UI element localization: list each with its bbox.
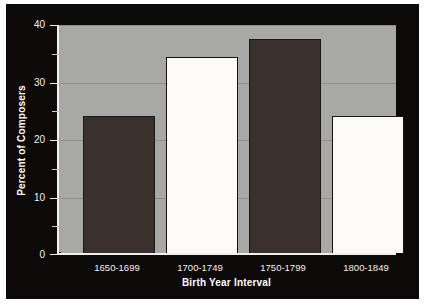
x-tick-label-1650-1699: 1650-1699 (94, 262, 139, 273)
y-axis-title: Percent of Composers (14, 25, 28, 255)
y-tick-label-0: 0 (39, 250, 45, 260)
y-tick-major-0 (50, 254, 59, 255)
y-tick-label-10: 10 (34, 193, 45, 203)
x-tick-label-1800-1849: 1800-1849 (343, 262, 388, 273)
y-tick-minor-35 (52, 54, 59, 55)
y-tick-label-30: 30 (34, 78, 45, 88)
y-tick-minor-5 (52, 226, 59, 227)
x-tick-label-1700-1749: 1700-1749 (177, 262, 222, 273)
bar-1700-1749[interactable] (166, 57, 238, 253)
x-tick-label-1750-1799: 1750-1799 (260, 262, 305, 273)
y-tick-minor-25 (52, 111, 59, 112)
y-tick-major-10 (50, 198, 59, 199)
y-tick-label-40: 40 (34, 20, 45, 30)
y-axis-title-label: Percent of Composers (16, 85, 27, 196)
plot-area (57, 25, 396, 255)
bar-1750-1799[interactable] (249, 39, 321, 253)
bar-1800-1849[interactable] (332, 116, 404, 253)
y-tick-major-30 (50, 83, 59, 84)
gridline-40 (59, 25, 396, 26)
bar-1650-1699[interactable] (83, 116, 155, 253)
x-axis-title: Birth Year Interval (57, 277, 396, 288)
y-tick-major-40 (50, 25, 59, 26)
y-tick-minor-15 (52, 169, 59, 170)
bar-chart-figure: Percent of Composers 0 10 20 30 40 (0, 0, 425, 306)
y-tick-major-20 (50, 140, 59, 141)
y-tick-label-20: 20 (34, 135, 45, 145)
